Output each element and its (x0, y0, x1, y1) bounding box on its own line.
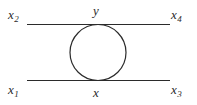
vertex-label-x1-subscript: 1 (14, 89, 19, 99)
vertex-label-x4-base: x (171, 7, 177, 22)
loop-circle (70, 25, 126, 81)
vertex-label-x4-subscript: 4 (177, 14, 182, 24)
feynman-diagram-figure: x2 x4 x1 x3 y x (0, 0, 197, 105)
vertex-label-x2-subscript: 2 (14, 14, 19, 24)
vertex-label-x3: x3 (171, 83, 181, 96)
loop-label-x: x (93, 86, 99, 99)
loop-label-y-base: y (93, 3, 99, 18)
vertex-label-x3-base: x (171, 82, 177, 97)
vertex-label-x1: x1 (8, 83, 18, 96)
vertex-label-x1-base: x (8, 82, 14, 97)
vertex-label-x3-subscript: 3 (177, 89, 182, 99)
loop-label-y: y (93, 4, 99, 17)
vertex-label-x2-base: x (8, 7, 14, 22)
vertex-label-x2: x2 (8, 8, 18, 21)
loop-label-x-base: x (93, 85, 99, 100)
vertex-label-x4: x4 (171, 8, 181, 21)
